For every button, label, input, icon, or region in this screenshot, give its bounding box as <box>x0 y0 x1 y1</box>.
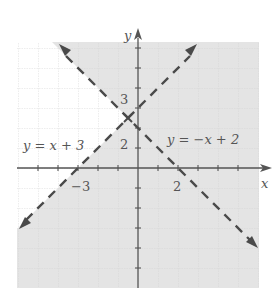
y-tick-label-3: 3 <box>120 92 128 107</box>
y-axis-label: y <box>123 28 132 43</box>
x-axis-label: x <box>261 176 269 191</box>
line2-label: y = −x + 2 <box>166 132 239 147</box>
y-tick-label-2: 2 <box>120 137 128 152</box>
line1-label: y = x + 3 <box>22 138 84 153</box>
x-tick-label-2: 2 <box>173 179 181 194</box>
x-tick-label-neg3: −3 <box>71 179 90 194</box>
graph-canvas: y x y = x + 3 y = −x + 2 3 2 −3 2 <box>0 0 275 288</box>
